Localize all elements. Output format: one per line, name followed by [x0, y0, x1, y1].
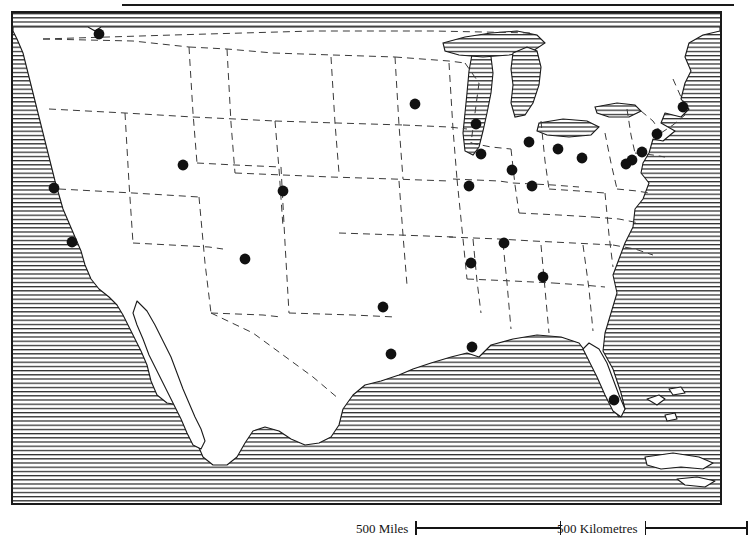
- scale-km-ruler: [645, 521, 748, 535]
- scale-km-group: 500 Kilometres: [557, 513, 748, 543]
- city-dot-boston: [678, 102, 689, 113]
- scale-km-tick-start: [645, 521, 647, 535]
- city-dot-atlanta: [538, 272, 549, 283]
- city-dot-new-york: [652, 129, 663, 140]
- city-dot-los-angeles: [67, 237, 78, 248]
- bahamas-island-3: [665, 413, 677, 421]
- city-dot-houston: [386, 349, 397, 360]
- city-dot-seattle: [94, 29, 105, 40]
- city-dot-san-francisco: [49, 183, 60, 194]
- header-rule: [122, 4, 734, 6]
- city-dot-denver: [278, 186, 289, 197]
- city-dot-washington: [621, 159, 632, 170]
- city-dot-cincinnati: [527, 181, 538, 192]
- city-dot-new-orleans: [467, 342, 478, 353]
- scale-miles-ruler: [415, 521, 561, 535]
- scale-miles-bar: [415, 527, 561, 529]
- map-canvas: [13, 13, 720, 503]
- city-dot-dallas: [378, 302, 389, 313]
- city-dot-indianapolis: [507, 165, 518, 176]
- city-dot-phoenix: [240, 254, 251, 265]
- city-dot-memphis: [466, 258, 477, 269]
- city-dot-nashville: [499, 238, 510, 249]
- city-dot-salt-lake-city: [178, 160, 189, 171]
- city-dot-detroit: [524, 137, 535, 148]
- city-dot-minneapolis: [410, 99, 421, 110]
- scale-km-label: 500 Kilometres: [557, 522, 638, 535]
- scale-bar: 500 Miles 500 Kilometres: [11, 513, 722, 543]
- city-dot-philadelphia: [637, 147, 648, 158]
- city-dot-miami: [609, 395, 620, 406]
- scale-miles-tick-start: [415, 521, 417, 535]
- scale-km-tick-end: [746, 521, 748, 535]
- map-frame: [11, 11, 722, 505]
- scale-km-bar: [645, 527, 748, 529]
- scale-miles-label: 500 Miles: [356, 522, 408, 535]
- city-dot-chicago: [476, 149, 487, 160]
- city-dot-pittsburgh: [577, 153, 588, 164]
- city-dot-cleveland: [553, 144, 564, 155]
- scale-miles-group: 500 Miles: [356, 513, 561, 543]
- city-dot-milwaukee: [471, 119, 482, 130]
- city-dot-st-louis: [464, 181, 475, 192]
